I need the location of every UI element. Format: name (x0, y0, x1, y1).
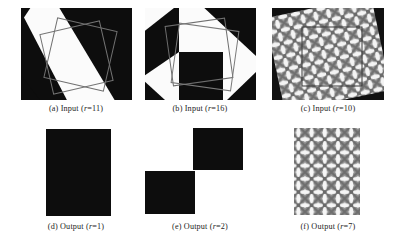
panel-d-image (21, 126, 132, 218)
panel-b-image (145, 8, 256, 100)
panel-e-caption: (e) Output (r=2) (138, 222, 262, 232)
woven-texture-output (294, 128, 360, 215)
panel-e: (e) Output (r=2) (138, 126, 262, 238)
panel-d-artwork (21, 126, 132, 218)
panel-b: (b) Input (r=16) (138, 8, 262, 120)
panel-c: (c) Input (r=10) (262, 8, 394, 120)
panel-a-artwork (21, 8, 132, 100)
panel-a-caption: (a) Input (r=11) (14, 104, 138, 114)
panel-c-image (272, 8, 384, 100)
panel-a-image (21, 8, 132, 100)
panel-a: (a) Input (r=11) (14, 8, 138, 120)
output-block-1 (193, 128, 243, 170)
panel-f-artwork (272, 126, 384, 218)
panel-f-image (272, 126, 384, 218)
panel-f-caption: (f) Output (r=7) (262, 222, 394, 232)
panel-d-caption: (d) Output (r=1) (14, 222, 138, 232)
panel-f: (f) Output (r=7) (262, 126, 394, 238)
panel-c-caption: (c) Input (r=10) (262, 104, 394, 114)
panel-e-image (145, 126, 256, 218)
checker-block-center (179, 52, 223, 100)
panel-b-artwork (145, 8, 256, 100)
figure-container: (a) Input (r=11) (b) Input (r=16) (0, 0, 402, 251)
panel-b-caption: (b) Input (r=16) (138, 104, 262, 114)
panel-c-artwork (272, 8, 384, 100)
panel-d: (d) Output (r=1) (14, 126, 138, 238)
output-block-1 (46, 129, 111, 216)
panel-e-artwork (145, 126, 256, 218)
output-block-2 (145, 171, 195, 214)
